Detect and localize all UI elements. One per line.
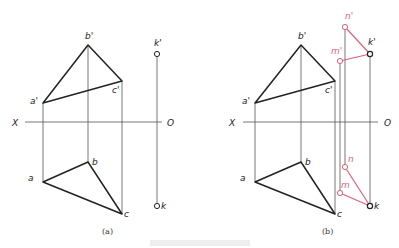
label-a-prime-a: a' bbox=[30, 96, 38, 106]
point-m bbox=[337, 190, 342, 195]
triangle-front-view-a bbox=[43, 45, 122, 103]
label-a-a: a bbox=[28, 173, 34, 183]
label-a-b: a bbox=[240, 173, 246, 183]
red-line-m-prime-k-prime bbox=[340, 54, 370, 61]
point-n bbox=[342, 164, 347, 169]
label-b-prime-a: b' bbox=[85, 31, 93, 41]
label-m: m bbox=[341, 180, 350, 190]
label-k-a: k bbox=[161, 201, 167, 211]
projection-diagram: X O b' a' c' b a c k' k (a) X O bbox=[0, 0, 399, 248]
point-k-prime-a bbox=[154, 51, 159, 56]
label-c-prime-b: c' bbox=[325, 85, 332, 95]
figure-b: X O b' a' c' b a c k' k n' m' n bbox=[228, 11, 391, 236]
triangle-top-view-b bbox=[255, 162, 335, 214]
label-n-prime: n' bbox=[345, 11, 353, 21]
triangle-front-view-b bbox=[255, 45, 335, 103]
label-b-a: b bbox=[92, 157, 98, 167]
point-k-prime-b bbox=[367, 51, 372, 56]
axis-x-label-a: X bbox=[11, 118, 19, 128]
point-k-a bbox=[154, 203, 159, 208]
triangle-top-view-a bbox=[43, 162, 122, 214]
axis-o-label-a: O bbox=[167, 118, 174, 128]
caption-b: (b) bbox=[322, 227, 333, 236]
label-k-prime-b: k' bbox=[368, 37, 376, 47]
label-n: n bbox=[348, 154, 354, 164]
label-k-b: k bbox=[374, 201, 380, 211]
axis-x-label-b: X bbox=[228, 118, 236, 128]
red-line-n-prime-k-prime bbox=[345, 27, 370, 54]
label-k-prime-a: k' bbox=[154, 38, 162, 48]
label-b-prime-b: b' bbox=[298, 31, 306, 41]
point-m-prime bbox=[337, 58, 342, 63]
point-n-prime bbox=[342, 24, 347, 29]
point-k-b bbox=[367, 203, 372, 208]
label-a-prime-b: a' bbox=[242, 96, 250, 106]
label-c-prime-a: c' bbox=[112, 85, 119, 95]
caption-a: (a) bbox=[102, 227, 113, 236]
label-c-a: c bbox=[124, 209, 129, 219]
label-m-prime: m' bbox=[331, 46, 342, 56]
figure-caption-illegible bbox=[150, 240, 250, 246]
figure-a: X O b' a' c' b a c k' k (a) bbox=[11, 31, 174, 236]
axis-o-label-b: O bbox=[384, 118, 391, 128]
label-c-b: c bbox=[337, 209, 342, 219]
label-b-b: b bbox=[305, 157, 311, 167]
